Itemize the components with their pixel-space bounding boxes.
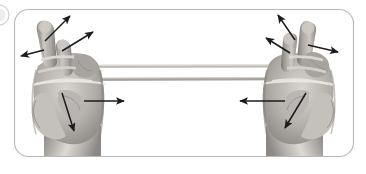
figure-illustration: Left index finger abduction up-right Lef… [0, 0, 366, 174]
photo-content: Left index finger abduction up-right Lef… [14, 9, 354, 168]
exercise-figure: Two-hand elastic band finger abduction e… [0, 0, 366, 174]
